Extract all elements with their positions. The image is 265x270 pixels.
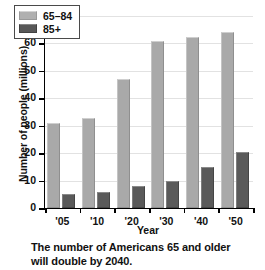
x-tick-mark (114, 208, 116, 213)
bar (201, 167, 214, 208)
chart-legend: 65–84 85+ (14, 5, 80, 39)
bar (221, 32, 234, 208)
bar-chart-figure: Number of people (millions) 010203040506… (0, 0, 265, 270)
chart-caption: The number of Americans 65 and older wil… (31, 240, 246, 268)
legend-item-65-84: 65–84 (19, 9, 72, 22)
legend-item-85-plus: 85+ (19, 22, 72, 35)
bar (97, 192, 110, 208)
y-tick-label: 50 (24, 64, 36, 77)
legend-label-65-84: 65–84 (43, 10, 72, 22)
x-tick-mark (253, 208, 255, 213)
y-tick-label: 40 (24, 91, 36, 104)
bar (166, 181, 179, 208)
bar (132, 186, 145, 208)
x-tick-mark (45, 208, 47, 213)
x-tick-mark (80, 208, 82, 213)
bar (47, 123, 60, 208)
bar (82, 118, 95, 209)
x-tick-mark (149, 208, 151, 213)
x-tick-mark (184, 208, 186, 213)
legend-swatch-icon-65-84 (19, 11, 37, 20)
y-tick-label: 0 (30, 201, 36, 214)
bar (62, 194, 75, 208)
bar (236, 152, 249, 208)
plot-area: 010203040506070 '05'10'20'30'40'50 (44, 16, 253, 209)
bar (117, 79, 130, 208)
legend-swatch-icon-85-plus (19, 24, 37, 33)
y-tick-label: 30 (24, 119, 36, 132)
y-tick-label: 20 (24, 146, 36, 159)
bar (186, 37, 199, 208)
bar (151, 41, 164, 208)
x-axis-title: Year (44, 224, 252, 236)
legend-label-85-plus: 85+ (43, 23, 61, 35)
x-tick-mark (218, 208, 220, 213)
bar-group-container (45, 16, 253, 208)
y-tick-label: 10 (24, 174, 36, 187)
